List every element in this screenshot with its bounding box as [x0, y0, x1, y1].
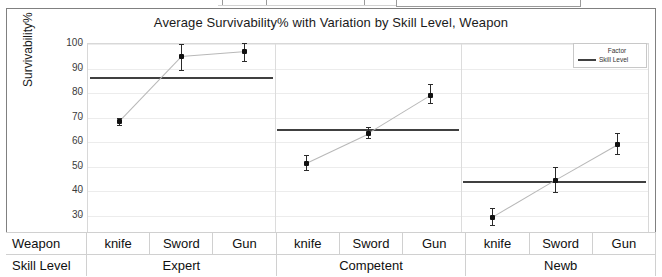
error-bar-cap [304, 170, 309, 171]
error-bar-cap [428, 84, 433, 85]
data-point-marker[interactable] [117, 119, 122, 124]
weapon-cell: Sword [150, 233, 213, 255]
data-point-marker[interactable] [304, 161, 309, 166]
error-bar-cap [553, 192, 558, 193]
y-tick-mark [80, 117, 83, 118]
plot-inner [88, 44, 648, 239]
weapon-cell: knife [87, 233, 150, 255]
weapon-cell: Gun [403, 233, 466, 255]
chart-panel: Average Survivability% with Variation by… [6, 8, 656, 270]
row-label-weapon: Weapon [6, 233, 87, 255]
y-tick-mark [80, 166, 83, 167]
legend-entry-label: Skill Level [599, 56, 628, 63]
chrome-input-box[interactable] [396, 0, 581, 7]
y-tick-label: 50 [49, 160, 83, 171]
screenshot-root: Average Survivability% with Variation by… [0, 0, 662, 277]
row-label-skill-level: Skill Level [6, 255, 87, 277]
y-tick-mark [80, 92, 83, 93]
error-bar-cap [490, 208, 495, 209]
y-tick-mark [80, 190, 83, 191]
error-bar-cap [304, 155, 309, 156]
error-bar-cap [242, 61, 247, 62]
series-line-segment [555, 144, 618, 180]
legend-title: Factor [576, 47, 644, 54]
error-bar-cap [366, 127, 371, 128]
y-tick-label: 80 [49, 86, 83, 97]
skill-level-cell: Expert [87, 255, 277, 277]
panel-separator [275, 44, 276, 239]
y-gridline [88, 118, 648, 119]
group-mean-line [90, 77, 273, 79]
series-line-segment [181, 51, 243, 57]
error-bar-cap [490, 225, 495, 226]
data-point-marker[interactable] [490, 215, 495, 220]
skill-level-cell: Competent [276, 255, 466, 277]
series-line-segment [368, 95, 431, 134]
data-point-marker[interactable] [428, 93, 433, 98]
error-bar-cap [615, 133, 620, 134]
weapon-cell: Gun [213, 233, 276, 255]
data-point-marker[interactable] [366, 131, 371, 136]
legend-entry-skill-level[interactable]: Skill Level [576, 56, 644, 63]
chrome-tick [364, 0, 365, 5]
chart-title: Average Survivability% with Variation by… [7, 15, 655, 30]
legend-line-icon [578, 59, 596, 61]
weapon-row: Weapon knife Sword Gun knife Sword Gun k… [6, 233, 656, 255]
legend: Factor Skill Level [573, 43, 647, 68]
chrome-tab-strip[interactable] [218, 0, 423, 6]
weapon-cell: knife [276, 233, 339, 255]
window-chrome-strip [0, 0, 662, 7]
axis-label-table: Weapon knife Sword Gun knife Sword Gun k… [6, 232, 656, 276]
weapon-cell: Sword [529, 233, 592, 255]
weapon-cell: Gun [592, 233, 655, 255]
series-line-segment [306, 133, 369, 163]
error-bar-cap [179, 44, 184, 45]
y-tick-label: 60 [49, 135, 83, 146]
error-bar-cap [179, 70, 184, 71]
y-gridline [88, 69, 648, 70]
data-point-marker[interactable] [553, 178, 558, 183]
weapon-cell: Sword [339, 233, 402, 255]
chrome-tick [266, 0, 267, 5]
error-bar-cap [615, 154, 620, 155]
y-tick-mark [80, 141, 83, 142]
panel-separator [461, 44, 462, 239]
y-tick-mark [80, 43, 83, 44]
weapon-cell: knife [466, 233, 529, 255]
skill-level-row: Skill Level Expert Competent Newb [6, 255, 656, 277]
error-bar-cap [117, 125, 122, 126]
y-gridline [88, 44, 648, 45]
data-point-marker[interactable] [615, 142, 620, 147]
y-tick-label: 40 [49, 184, 83, 195]
y-gridline [88, 191, 648, 192]
y-tick-mark [80, 215, 83, 216]
y-gridline [88, 216, 648, 217]
y-gridline [88, 142, 648, 143]
data-point-marker[interactable] [179, 54, 184, 59]
error-bar-cap [366, 138, 371, 139]
error-bar-cap [242, 43, 247, 44]
error-bar-cap [553, 167, 558, 168]
data-point-marker[interactable] [242, 49, 247, 54]
y-tick-label: 90 [49, 62, 83, 73]
series-line-segment [492, 180, 555, 218]
y-axis-ticks: 2030405060708090100 [43, 43, 83, 239]
chrome-tick [222, 0, 223, 5]
y-tick-label: 30 [49, 209, 83, 220]
skill-level-cell: Newb [466, 255, 656, 277]
series-line-segment [119, 56, 182, 122]
y-axis-label: Survivability% [21, 12, 35, 87]
y-tick-mark [80, 68, 83, 69]
y-gridline [88, 93, 648, 94]
y-tick-label: 100 [49, 37, 83, 48]
error-bar-cap [428, 103, 433, 104]
y-tick-label: 70 [49, 111, 83, 122]
plot-area [87, 43, 649, 239]
y-gridline [88, 167, 648, 168]
